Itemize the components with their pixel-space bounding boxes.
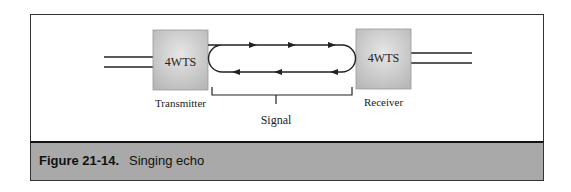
figure-caption: Singing echo [129,153,204,168]
figure-number: Figure 21-14. [39,153,119,168]
caption-bar: Figure 21-14. Singing echo [30,141,544,181]
caption-container: Figure 21-14. Singing echo [30,14,544,181]
